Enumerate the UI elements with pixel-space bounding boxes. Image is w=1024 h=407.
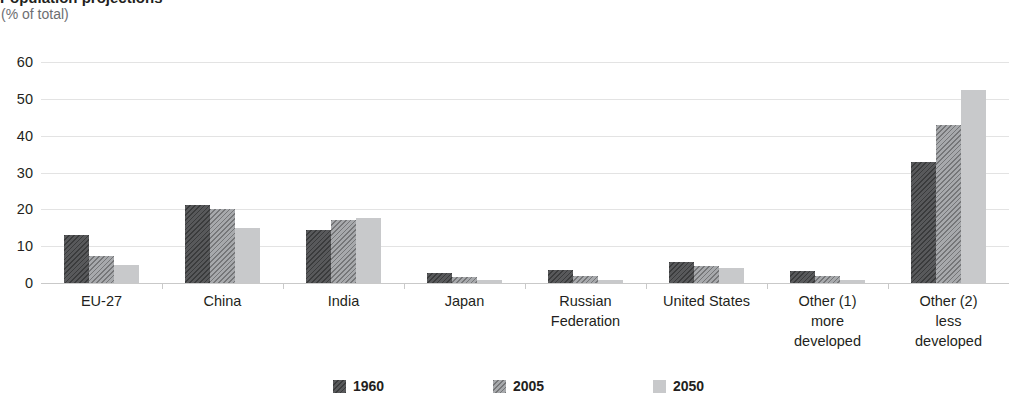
x-axis-label-line: Russian [525, 291, 646, 311]
bar-2050-japan[interactable] [477, 280, 502, 283]
bar-2050-eu-27[interactable] [114, 265, 139, 283]
bar-group [64, 62, 139, 283]
bar-2005-eu-27[interactable] [89, 256, 114, 283]
x-axis-tickmark [283, 283, 284, 289]
bar-1960-other-2-less-developed[interactable] [911, 162, 936, 283]
legend-label-2005: 2005 [513, 378, 544, 394]
x-axis-label-russian-federation: RussianFederation [525, 291, 646, 331]
bar-2050-other-1-more-developed[interactable] [840, 280, 865, 283]
y-axis-tick-0: 0 [25, 275, 33, 291]
bar-2050-india[interactable] [356, 218, 381, 283]
x-axis-label-united-states: United States [646, 291, 767, 311]
bar-1960-china[interactable] [185, 205, 210, 283]
x-axis-label-line: EU-27 [41, 291, 162, 311]
x-axis-label-line: Federation [525, 311, 646, 331]
legend-label-2050: 2050 [673, 378, 704, 394]
bar-1960-other-1-more-developed[interactable] [790, 271, 815, 283]
bar-series-container [41, 62, 1009, 283]
bar-2005-india[interactable] [331, 220, 356, 283]
y-axis-tick-20: 20 [17, 201, 33, 217]
bar-2050-china[interactable] [235, 228, 260, 283]
x-axis-tickmark [767, 283, 768, 289]
legend-swatch-2005 [493, 380, 506, 393]
x-axis-label-china: China [162, 291, 283, 311]
x-axis-label-line: Other (2) [888, 291, 1009, 311]
bar-group [548, 62, 623, 283]
bar-2005-other-2-less-developed[interactable] [936, 125, 961, 283]
legend-item-2005[interactable]: 2005 [493, 378, 544, 394]
x-axis-label-other-2-less-developed: Other (2)lessdeveloped [888, 291, 1009, 351]
bar-1960-eu-27[interactable] [64, 235, 89, 283]
bar-group [185, 62, 260, 283]
y-axis-tick-60: 60 [17, 54, 33, 70]
x-axis-label-line: United States [646, 291, 767, 311]
x-axis-tickmark [646, 283, 647, 289]
bar-group [306, 62, 381, 283]
bar-2005-other-1-more-developed[interactable] [815, 276, 840, 283]
x-axis-tickmark [162, 283, 163, 289]
legend-swatch-1960 [333, 380, 346, 393]
x-axis-label-line: developed [767, 331, 888, 351]
legend-item-1960[interactable]: 1960 [333, 378, 384, 394]
y-axis-tick-40: 40 [17, 128, 33, 144]
bar-group [427, 62, 502, 283]
bar-2050-united-states[interactable] [719, 268, 744, 283]
legend-label-1960: 1960 [353, 378, 384, 394]
x-axis-tickmark [525, 283, 526, 289]
bar-1960-india[interactable] [306, 230, 331, 283]
bar-group [911, 62, 986, 283]
bar-group [669, 62, 744, 283]
x-axis-label-india: India [283, 291, 404, 311]
y-axis-tick-30: 30 [17, 165, 33, 181]
legend-swatch-2050 [653, 380, 666, 393]
bar-2005-japan[interactable] [452, 277, 477, 283]
y-axis: 0102030405060 [0, 62, 33, 283]
bar-2005-china[interactable] [210, 209, 235, 283]
bar-2050-russian-federation[interactable] [598, 280, 623, 283]
x-axis-tickmark [888, 283, 889, 289]
bar-2050-other-2-less-developed[interactable] [961, 90, 986, 283]
x-axis-label-line: developed [888, 331, 1009, 351]
legend-item-2050[interactable]: 2050 [653, 378, 704, 394]
bar-1960-united-states[interactable] [669, 262, 694, 283]
x-axis-label-eu-27: EU-27 [41, 291, 162, 311]
x-axis-label-line: Other (1) [767, 291, 888, 311]
x-axis-labels: EU-27ChinaIndiaJapanRussianFederationUni… [41, 291, 1009, 366]
chart-subtitle: (% of total) [1, 6, 69, 22]
x-axis-label-line: less [888, 311, 1009, 331]
x-axis-label-other-1-more-developed: Other (1)moredeveloped [767, 291, 888, 351]
bar-2005-united-states[interactable] [694, 266, 719, 283]
y-axis-tick-50: 50 [17, 91, 33, 107]
bar-2005-russian-federation[interactable] [573, 276, 598, 283]
x-axis-tickmark [404, 283, 405, 289]
x-axis-label-line: China [162, 291, 283, 311]
chart-legend: 196020052050 [0, 378, 1024, 402]
x-axis-label-line: India [283, 291, 404, 311]
bar-1960-russian-federation[interactable] [548, 270, 573, 283]
x-axis-label-line: more [767, 311, 888, 331]
y-axis-tick-10: 10 [17, 238, 33, 254]
x-axis-label-japan: Japan [404, 291, 525, 311]
x-axis-label-line: Japan [404, 291, 525, 311]
bar-1960-japan[interactable] [427, 273, 452, 283]
bar-group [790, 62, 865, 283]
